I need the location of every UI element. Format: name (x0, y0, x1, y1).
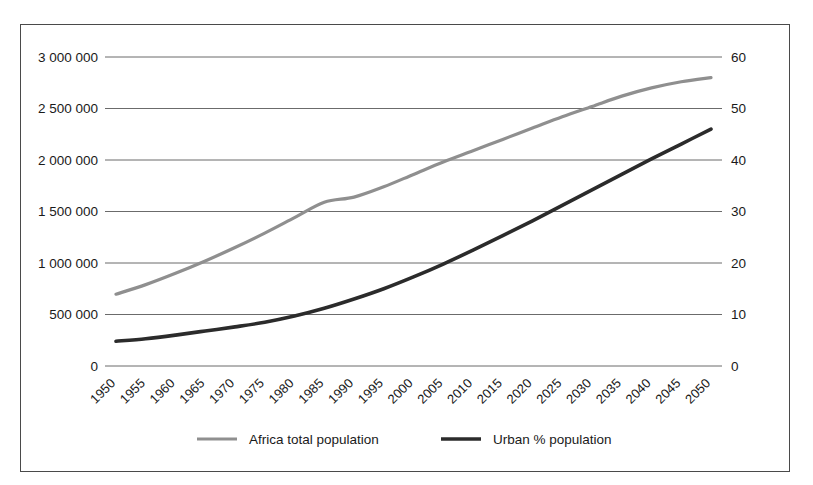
x-axis-tick-label: 2000 (385, 376, 416, 407)
x-axis-tick-label: 2035 (593, 376, 624, 407)
x-axis-tick-label: 1995 (355, 376, 386, 407)
x-axis-tick-label: 1960 (147, 376, 178, 407)
x-axis-tick-label: 2005 (414, 376, 445, 407)
x-axis-tick-label: 2020 (504, 376, 535, 407)
x-axis-tick-label: 1980 (266, 376, 297, 407)
dual-axis-line-chart: 0500 0001 000 0001 500 0002 000 0002 500… (21, 25, 791, 473)
right-axis-tick-label: 20 (731, 256, 746, 271)
left-axis-tick-label: 2 000 000 (38, 153, 98, 168)
x-axis-tick-label: 2050 (682, 376, 713, 407)
left-axis-tick-label: 500 000 (49, 307, 98, 322)
x-axis-tick-label: 1970 (206, 376, 237, 407)
chart-legend: Africa total populationUrban % populatio… (197, 432, 612, 447)
x-axis-tick-label: 2010 (444, 376, 475, 407)
left-axis-tick-label: 0 (90, 359, 98, 374)
x-axis-tick-label: 1955 (117, 376, 148, 407)
right-axis-tick-label: 10 (731, 307, 746, 322)
x-axis-tick-label: 1975 (236, 376, 267, 407)
right-axis-ticklabels: 0102030405060 (731, 50, 746, 374)
x-axis-tick-label: 2025 (533, 376, 564, 407)
right-axis-tick-label: 40 (731, 153, 746, 168)
left-axis-tick-label: 3 000 000 (38, 50, 98, 65)
x-axis-tick-label: 1990 (325, 376, 356, 407)
series-group (116, 78, 711, 342)
right-axis-tick-label: 30 (731, 204, 746, 219)
x-axis-tick-label: 1965 (176, 376, 207, 407)
x-axis-ticklabels: 1950195519601965197019751980198519901995… (87, 376, 713, 407)
chart-frame: 0500 0001 000 0001 500 0002 000 0002 500… (20, 24, 790, 472)
left-axis-tick-label: 1 500 000 (38, 204, 98, 219)
legend-label-1: Africa total population (249, 432, 379, 447)
right-axis-tick-label: 60 (731, 50, 746, 65)
x-axis-tick-label: 1985 (295, 376, 326, 407)
x-axis-tick-label: 2030 (563, 376, 594, 407)
x-axis-tick-label: 2015 (474, 376, 505, 407)
right-axis-tick-label: 0 (731, 359, 739, 374)
left-axis-tick-label: 2 500 000 (38, 101, 98, 116)
series-line-1 (116, 78, 711, 295)
legend-label-2: Urban % population (493, 432, 612, 447)
x-axis-tick-label: 1950 (87, 376, 118, 407)
x-axis-tick-label: 2040 (623, 376, 654, 407)
gridlines-group (105, 57, 722, 366)
right-axis-tick-label: 50 (731, 101, 746, 116)
chart-plot-area: 0500 0001 000 0001 500 0002 000 0002 500… (21, 25, 789, 471)
left-axis-ticklabels: 0500 0001 000 0001 500 0002 000 0002 500… (38, 50, 98, 374)
x-axis-tick-label: 2045 (652, 376, 683, 407)
series-line-2 (116, 129, 711, 341)
left-axis-tick-label: 1 000 000 (38, 256, 98, 271)
